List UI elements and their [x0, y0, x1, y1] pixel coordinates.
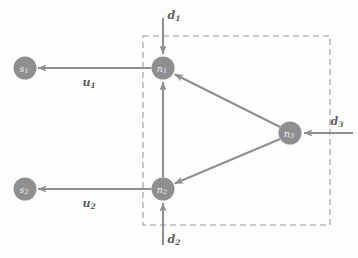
- edge-n3-to-n2: [175, 139, 281, 184]
- node-n1[interactable]: n1: [152, 57, 175, 80]
- edge-label-u2: u2: [82, 197, 95, 211]
- node-s1[interactable]: s1: [14, 57, 37, 80]
- node-s2[interactable]: s2: [14, 178, 37, 201]
- node-n3[interactable]: n3: [279, 122, 302, 145]
- edge-label-u1: u1: [82, 76, 95, 90]
- input-group: [163, 18, 353, 245]
- edge-n3-to-n1: [175, 74, 281, 127]
- edge-group: [38, 68, 280, 189]
- input-label-d3: d3: [331, 115, 344, 129]
- network-diagram-svg: s1 s2 n1 n2 n3: [0, 0, 358, 258]
- node-n2[interactable]: n2: [152, 178, 175, 201]
- input-label-d2: d2: [168, 233, 181, 247]
- diagram-canvas: s1 s2 n1 n2 n3: [0, 0, 358, 258]
- input-label-d1: d1: [168, 9, 181, 23]
